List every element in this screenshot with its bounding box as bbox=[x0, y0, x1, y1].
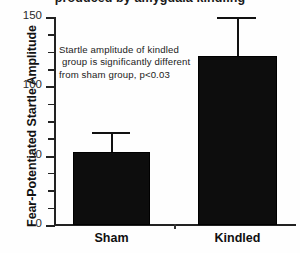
x-label-kindled: Kindled bbox=[198, 231, 277, 245]
y-tick-label-0: 0 bbox=[36, 217, 42, 229]
y-tick-100 bbox=[46, 86, 55, 88]
error-bar-cap-kindled bbox=[217, 17, 256, 19]
y-minor-tick bbox=[48, 138, 55, 140]
annotation-line-3: from sham group, p<0.03 bbox=[59, 69, 219, 81]
y-tick-label-50: 50 bbox=[29, 148, 42, 160]
y-tick-label-100: 100 bbox=[23, 78, 42, 90]
y-minor-tick bbox=[48, 104, 55, 106]
y-minor-tick bbox=[48, 208, 55, 210]
chart-title: produced by amygdala kindling bbox=[0, 0, 300, 5]
error-bar-stem-sham bbox=[111, 132, 113, 152]
y-tick-150 bbox=[46, 17, 55, 19]
error-bar-cap-sham bbox=[92, 132, 130, 134]
bar-chart-figure: produced by amygdala kindling Fear-Poten… bbox=[0, 0, 300, 253]
y-tick-50 bbox=[46, 156, 55, 158]
annotation-line-2: group is significantly different bbox=[59, 56, 219, 68]
x-axis-tick bbox=[174, 224, 176, 229]
y-minor-tick bbox=[48, 52, 55, 54]
annotation-line-1: Startle amplitude of kindled bbox=[59, 44, 219, 56]
y-minor-tick bbox=[48, 190, 55, 192]
x-label-sham: Sham bbox=[73, 231, 150, 245]
y-minor-tick bbox=[48, 121, 55, 123]
bar-kindled[interactable] bbox=[198, 56, 277, 225]
y-tick-0 bbox=[46, 225, 55, 227]
bar-sham[interactable] bbox=[73, 152, 150, 226]
y-tick-label-150: 150 bbox=[23, 9, 42, 21]
y-axis-title: Fear-Potentiated Startle Amplitude bbox=[25, 1, 39, 251]
error-bar-stem-kindled bbox=[237, 17, 239, 56]
significance-annotation: Startle amplitude of kindled group is si… bbox=[59, 44, 219, 81]
y-minor-tick bbox=[48, 69, 55, 71]
y-minor-tick bbox=[48, 34, 55, 36]
y-minor-tick bbox=[48, 173, 55, 175]
